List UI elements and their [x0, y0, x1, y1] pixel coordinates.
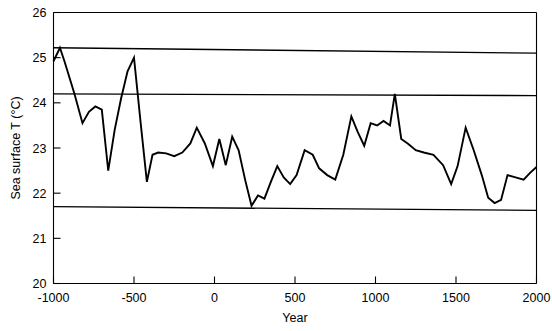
x-tick-label--500: -500 [121, 291, 146, 305]
x-tick-label-2000: 2000 [523, 291, 551, 305]
sea-surface-temperature-chart: 20212223242526-1000-5000500100015002000 … [0, 0, 552, 331]
y-tick-label-24: 24 [33, 96, 47, 110]
middle-trend-line [54, 94, 537, 96]
y-tick-label-22: 22 [33, 187, 47, 201]
reference-lines [54, 48, 537, 211]
y-tick-label-23: 23 [33, 142, 47, 156]
x-axis-title: Year [282, 311, 307, 325]
y-tick-label-20: 20 [33, 277, 47, 291]
x-tick-label--1000: -1000 [38, 291, 70, 305]
y-axis-title: Sea surface T (°C) [9, 96, 23, 199]
tick-marks [54, 13, 537, 284]
data-series [54, 48, 537, 206]
series-line-sea-surface-temperature [54, 48, 537, 206]
x-tick-label-1500: 1500 [442, 291, 470, 305]
x-tick-label-1000: 1000 [362, 291, 390, 305]
y-tick-label-26: 26 [33, 6, 47, 20]
y-tick-label-25: 25 [33, 51, 47, 65]
upper-trend-line [54, 48, 537, 53]
lower-trend-line [54, 207, 537, 211]
axes [54, 13, 537, 284]
x-tick-label-0: 0 [211, 291, 218, 305]
y-tick-label-21: 21 [33, 232, 47, 246]
x-tick-label-500: 500 [285, 291, 306, 305]
chart-figure: 20212223242526-1000-5000500100015002000 … [0, 0, 552, 331]
